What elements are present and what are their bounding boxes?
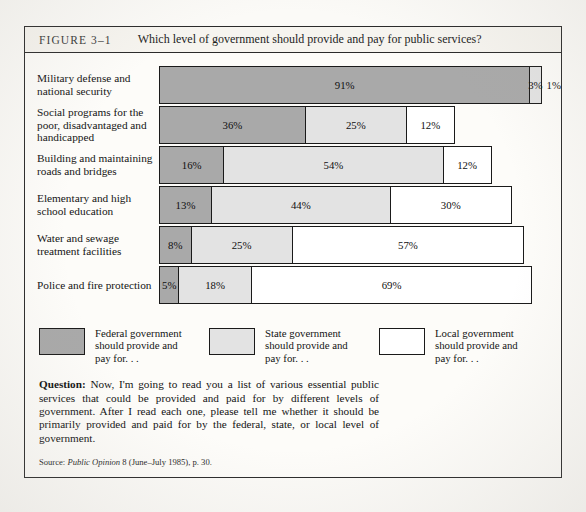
category-label: Elementary and highschool education <box>37 192 159 217</box>
question-text: Now, I'm going to read you a list of var… <box>39 378 379 444</box>
segment-value: 44% <box>291 199 311 211</box>
bar-area: 16%54%12% <box>159 145 553 185</box>
category-label: Police and fire protection <box>37 279 159 292</box>
bar-segment-state: 44% <box>211 186 391 224</box>
bar-segment-federal: 13% <box>159 186 212 224</box>
segment-value: 57% <box>398 239 418 251</box>
scanned-page: FIGURE 3–1 Which level of government sho… <box>0 0 586 512</box>
chart-row: Elementary and highschool education13%44… <box>25 185 561 225</box>
legend-label: State governmentshould provide andpay fo… <box>265 327 348 364</box>
segment-value: 25% <box>346 119 366 131</box>
stacked-bar: 91%3% <box>159 66 543 104</box>
stacked-bar: 13%44%30% <box>159 186 514 224</box>
category-label: Building and maintainingroads and bridge… <box>37 152 159 177</box>
bar-segment-state: 25% <box>191 226 293 264</box>
stacked-bar: 5%18%69% <box>159 266 534 304</box>
legend-item-state: State governmentshould provide andpay fo… <box>209 327 379 364</box>
segment-value-outside: 1% <box>543 79 561 91</box>
bar-segment-federal: 8% <box>159 226 192 264</box>
chart-row: Social programs for thepoor, disadvantag… <box>25 105 561 145</box>
legend-label: Federal governmentshould provide andpay … <box>95 327 182 364</box>
bar-segment-federal: 5% <box>159 266 179 304</box>
question-label: Question: <box>39 378 86 390</box>
legend-swatch-state <box>209 328 255 355</box>
segment-value: 36% <box>223 119 243 131</box>
segment-value: 13% <box>176 199 196 211</box>
figure-number: FIGURE 3–1 <box>39 34 112 46</box>
bar-segment-local: 69% <box>251 266 533 304</box>
bar-segment-federal: 16% <box>159 146 224 184</box>
segment-value: 12% <box>420 119 440 131</box>
stacked-bar: 36%25%12% <box>159 106 457 144</box>
chart-legend: Federal governmentshould provide andpay … <box>39 327 561 364</box>
segment-value: 16% <box>182 159 202 171</box>
stacked-bar: 8%25%57% <box>159 226 526 264</box>
legend-swatch-federal <box>39 328 85 355</box>
segment-value: 69% <box>382 279 402 291</box>
chart-row: Building and maintainingroads and bridge… <box>25 145 561 185</box>
legend-swatch-local <box>379 328 425 355</box>
category-label: Military defense andnational security <box>37 72 159 97</box>
source-line: Source: Public Opinion 8 (June–July 1985… <box>39 457 561 467</box>
bar-segment-local: 12% <box>406 106 455 144</box>
bar-area: 5%18%69% <box>159 265 553 305</box>
stacked-bar: 16%54%12% <box>159 146 494 184</box>
figure-title: Which level of government should provide… <box>138 32 482 47</box>
legend-item-federal: Federal governmentshould provide andpay … <box>39 327 209 364</box>
bar-area: 8%25%57% <box>159 225 553 265</box>
bar-segment-local: 12% <box>443 146 492 184</box>
bar-area: 13%44%30% <box>159 185 553 225</box>
figure-frame: FIGURE 3–1 Which level of government sho… <box>24 26 562 478</box>
bar-segment-local: 57% <box>292 226 525 264</box>
legend-item-local: Local governmentshould provide andpay fo… <box>379 327 549 364</box>
segment-value: 8% <box>168 239 182 251</box>
segment-value: 5% <box>162 279 176 291</box>
segment-value: 12% <box>457 159 477 171</box>
bar-segment-local: 30% <box>390 186 512 224</box>
figure-body: Military defense andnational security1%9… <box>25 65 561 467</box>
chart-row: Water and sewagetreatment facilities8%25… <box>25 225 561 265</box>
category-label: Social programs for thepoor, disadvantag… <box>37 106 159 144</box>
segment-value: 30% <box>441 199 461 211</box>
bar-segment-federal: 91% <box>159 66 530 104</box>
bar-segment-federal: 36% <box>159 106 306 144</box>
chart-row: Military defense andnational security1%9… <box>25 65 561 105</box>
source-suffix: 8 (June–July 1985), p. 30. <box>120 457 212 467</box>
bar-segment-state: 18% <box>178 266 251 304</box>
bar-segment-state: 54% <box>223 146 443 184</box>
bar-segment-state: 3% <box>529 66 541 104</box>
bar-area: 36%25%12% <box>159 105 553 145</box>
legend-label: Local governmentshould provide andpay fo… <box>435 327 518 364</box>
segment-value: 54% <box>324 159 344 171</box>
segment-value: 91% <box>335 79 355 91</box>
source-publication: Public Opinion <box>67 457 120 467</box>
category-label: Water and sewagetreatment facilities <box>37 232 159 257</box>
figure-header: FIGURE 3–1 Which level of government sho… <box>25 27 561 53</box>
segment-value: 25% <box>232 239 252 251</box>
question-block: Question: Now, I'm going to read you a l… <box>39 378 379 445</box>
stacked-bar-chart: Military defense andnational security1%9… <box>25 65 561 317</box>
chart-row: Police and fire protection5%18%69% <box>25 265 561 305</box>
segment-value: 3% <box>528 79 542 91</box>
segment-value: 18% <box>205 279 225 291</box>
source-prefix: Source: <box>39 457 67 467</box>
bar-segment-state: 25% <box>305 106 407 144</box>
bar-area: 1%91%3% <box>159 65 553 105</box>
